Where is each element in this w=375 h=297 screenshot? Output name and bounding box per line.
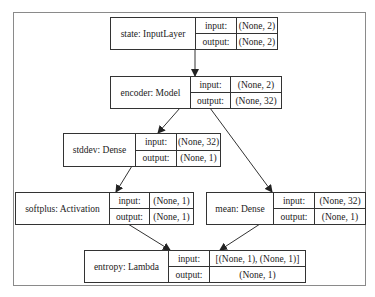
output-shape: (None, 1) [210,266,305,282]
output-key: output: [191,92,230,108]
node-softplus: softplus: Activation input: output: (Non… [15,192,194,225]
edge-mean-entropy [220,224,260,250]
input-shape: [(None, 1), (None, 1)] [210,251,305,266]
input-key: input: [191,77,230,92]
input-key: input: [136,134,176,150]
input-shape: (None, 2) [231,77,281,92]
input-shape: (None, 1) [150,193,193,208]
node-label: stddev: Dense [64,134,136,166]
input-key: input: [196,18,236,33]
node-label: state: InputLayer [111,18,196,49]
edge-softplus-entropy [128,224,170,250]
edge-encoder-stddev [158,108,180,133]
node-mean: mean: Dense input: output: (None, 32) (N… [206,192,366,225]
input-shape: (None, 2) [237,18,277,33]
node-label: entropy: Lambda [85,251,169,282]
output-shape: (None, 1) [150,208,193,224]
node-entropy: entropy: Lambda input: output: [(None, 1… [84,250,306,283]
node-label: mean: Dense [207,193,274,224]
output-key: output: [274,208,314,224]
output-shape: (None, 32) [231,92,281,108]
input-key: input: [110,193,149,208]
node-label: encoder: Model [111,77,191,108]
output-shape: (None, 1) [177,150,220,167]
output-key: output: [196,33,236,49]
input-shape: (None, 32) [177,134,220,150]
node-label: softplus: Activation [16,193,110,224]
input-key: input: [169,251,209,266]
output-shape: (None, 1) [315,208,365,224]
output-shape: (None, 2) [237,33,277,49]
node-encoder: encoder: Model input: output: (None, 2) … [110,76,282,109]
input-key: input: [274,193,314,208]
output-key: output: [136,150,176,167]
output-key: output: [110,208,149,224]
output-key: output: [169,266,209,282]
input-shape: (None, 32) [315,193,365,208]
node-state: state: InputLayer input: output: (None, … [110,17,278,50]
node-stddev: stddev: Dense input: output: (None, 32) … [63,133,221,167]
edge-stddev-softplus [116,166,132,192]
